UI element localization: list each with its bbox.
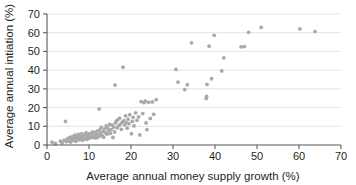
data-point: [152, 112, 156, 116]
axes-group: [47, 14, 341, 145]
data-point: [130, 120, 134, 124]
data-point: [243, 45, 247, 49]
y-tick-label-30: 30: [28, 83, 40, 95]
data-point: [207, 44, 211, 48]
data-point: [298, 27, 302, 31]
data-point: [124, 114, 128, 118]
chart-canvas: 010203040506070 010203040506070 Average …: [0, 0, 356, 185]
data-point: [119, 127, 123, 131]
data-point: [190, 41, 194, 45]
data-point: [113, 130, 117, 134]
data-point: [174, 67, 178, 71]
x-tick-label-30: 30: [167, 150, 179, 162]
data-point: [154, 98, 158, 102]
data-point: [148, 117, 152, 121]
x-tick-label-70: 70: [335, 150, 347, 162]
data-point: [97, 107, 101, 111]
x-tick-label-10: 10: [83, 150, 95, 162]
data-point: [126, 117, 130, 121]
data-point: [185, 83, 189, 87]
data-point: [105, 132, 109, 136]
data-point: [99, 126, 103, 130]
data-point: [210, 77, 214, 81]
data-point: [130, 132, 134, 136]
data-point: [111, 136, 115, 140]
x-tick-label-0: 0: [44, 150, 50, 162]
x-axis-title: Average annual money supply growth (%): [86, 170, 299, 182]
data-point: [222, 56, 226, 60]
x-axis-ticks-group: 010203040506070: [44, 145, 347, 162]
data-point: [64, 120, 68, 124]
data-point: [313, 30, 317, 34]
x-tick-label-60: 60: [293, 150, 305, 162]
data-point: [239, 45, 243, 49]
data-point: [143, 99, 147, 103]
y-tick-label-60: 60: [28, 27, 40, 39]
y-tick-label-40: 40: [28, 64, 40, 76]
data-point: [137, 115, 141, 119]
data-point: [102, 135, 106, 139]
y-tick-label-50: 50: [28, 45, 40, 57]
y-tick-label-70: 70: [28, 8, 40, 20]
data-point: [145, 128, 149, 132]
data-point: [151, 100, 155, 104]
scatter-plot-figure: 010203040506070 010203040506070 Average …: [0, 0, 356, 185]
data-point: [131, 115, 135, 119]
data-point: [147, 100, 151, 104]
data-point: [134, 111, 138, 115]
data-point: [259, 26, 263, 30]
data-point: [112, 125, 116, 129]
data-point: [113, 83, 117, 87]
data-point: [132, 124, 136, 128]
data-point: [109, 132, 113, 136]
data-points-group: [50, 26, 317, 146]
y-tick-label-0: 0: [34, 139, 40, 151]
x-tick-label-20: 20: [125, 150, 137, 162]
data-point: [121, 65, 125, 69]
data-point: [212, 33, 216, 37]
data-point: [135, 118, 139, 122]
gridlines-group: [47, 14, 341, 126]
data-point: [205, 94, 209, 98]
data-point: [220, 69, 224, 73]
x-tick-label-40: 40: [209, 150, 221, 162]
data-point: [50, 140, 54, 144]
data-point: [176, 80, 180, 84]
data-point: [141, 112, 145, 116]
data-point: [183, 88, 187, 92]
data-point: [125, 126, 129, 130]
data-point: [247, 30, 251, 34]
data-point: [144, 121, 148, 125]
y-tick-label-20: 20: [28, 102, 40, 114]
data-point: [118, 116, 122, 120]
data-point: [205, 82, 209, 86]
data-point: [127, 122, 131, 126]
data-point: [128, 113, 132, 117]
y-axis-ticks-group: 010203040506070: [28, 8, 47, 151]
data-point: [138, 133, 142, 137]
y-tick-label-10: 10: [28, 120, 40, 132]
x-tick-label-50: 50: [251, 150, 263, 162]
y-axis-title: Average annual intiation (%): [3, 4, 15, 148]
